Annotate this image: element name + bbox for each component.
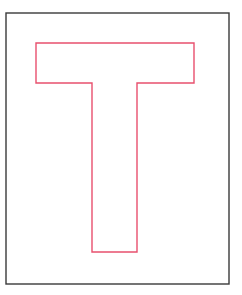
letter-t-outline: [36, 43, 194, 252]
diagram-canvas: [0, 0, 242, 295]
frame-border: [6, 13, 229, 284]
